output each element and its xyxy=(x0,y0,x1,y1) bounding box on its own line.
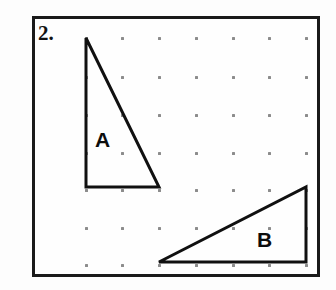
triangle-a-label: A xyxy=(95,129,110,150)
worksheet-page: 2. A B xyxy=(0,0,336,290)
triangle-b-label: B xyxy=(257,229,272,250)
triangle-b-shape xyxy=(159,187,306,262)
shapes-layer xyxy=(0,0,336,290)
triangle-a-shape xyxy=(86,38,159,187)
